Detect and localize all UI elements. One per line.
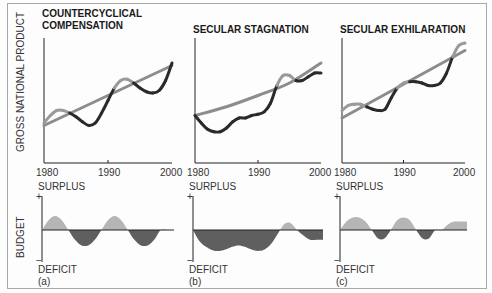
panel-a-surplus-label: SURPLUS xyxy=(38,181,86,192)
panel-a-x-tick-label: 1990 xyxy=(98,167,121,178)
panel-a-plus-sign: + xyxy=(36,191,42,202)
panel-a-actual-segment xyxy=(159,81,165,91)
panel-c-x-tick-label: 1980 xyxy=(334,167,357,178)
panel-a-x-tick-label: 2000 xyxy=(160,167,183,178)
panel-c-surplus-label: SURPLUS xyxy=(336,181,384,192)
panel-a-x-tick-label: 1980 xyxy=(36,167,59,178)
panel-b-trend-line xyxy=(195,63,321,116)
panel-b-x-tick-label: 1980 xyxy=(187,167,210,178)
panel-b-surplus-label: SURPLUS xyxy=(189,181,237,192)
panel-a-actual-segment xyxy=(95,113,101,123)
panel-a-trend-line xyxy=(44,66,172,126)
panel-b-x-tick-label: 2000 xyxy=(309,167,332,178)
panel-c-x-tick-label: 1990 xyxy=(394,167,417,178)
y-axis-label-budget: BUDGET xyxy=(15,216,26,258)
panel-b-deficit-area xyxy=(193,223,323,251)
panel-a-title: COMPENSATION xyxy=(42,20,123,31)
panel-a-deficit-label: DEFICIT xyxy=(38,264,77,275)
panel-c-plus-sign: + xyxy=(334,191,340,202)
panel-a-panel-label: (a) xyxy=(38,276,50,287)
panel-b-plus-sign: + xyxy=(187,191,193,202)
figure-svg: GROSS NATIONAL PRODUCTBUDGETCOUNTERCYCLI… xyxy=(0,0,492,293)
panel-a-title: COUNTERCYCLICAL xyxy=(42,8,142,19)
panel-c-title: SECULAR EXHILARATION xyxy=(340,24,465,35)
panel-c-actual-segment xyxy=(459,43,465,46)
panel-b-deficit-label: DEFICIT xyxy=(189,264,228,275)
panel-c-panel-label: (c) xyxy=(336,276,348,287)
panel-b-actual-segment xyxy=(271,86,277,104)
panel-a-actual-segment xyxy=(102,101,108,114)
panel-b-title: SECULAR STAGNATION xyxy=(193,24,309,35)
panel-c-x-tick-label: 2000 xyxy=(453,167,476,178)
panel-b-actual-segment xyxy=(277,76,283,86)
panel-b-x-tick-label: 1990 xyxy=(248,167,271,178)
panel-c-actual-segment xyxy=(385,98,391,109)
panel-b-panel-label: (b) xyxy=(189,276,201,287)
panel-b-actual-segment xyxy=(264,103,270,112)
y-axis-label-gnp: GROSS NATIONAL PRODUCT xyxy=(15,12,26,152)
panel-c-deficit-label: DEFICIT xyxy=(336,264,375,275)
panel-c-surplus-area xyxy=(340,217,467,240)
panel-c-actual-segment xyxy=(440,73,446,83)
